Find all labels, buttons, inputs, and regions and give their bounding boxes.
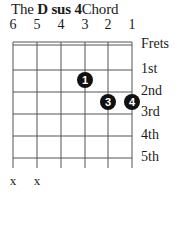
svg-text:4: 4 <box>129 96 136 108</box>
fret-label-2nd: 2nd <box>141 83 162 99</box>
fret-label-4th: 4th <box>141 127 159 143</box>
muted-string-5: x <box>31 173 43 189</box>
svg-text:3: 3 <box>105 96 111 108</box>
muted-string-6: x <box>7 173 19 189</box>
frets-header: Frets <box>141 36 169 52</box>
fret-label-5th: 5th <box>141 149 159 165</box>
finger-dot-1: 1 <box>77 72 93 88</box>
svg-text:1: 1 <box>82 74 88 86</box>
finger-dot-4: 4 <box>124 94 140 110</box>
fret-label-3rd: 3rd <box>141 104 160 120</box>
finger-dot-3: 3 <box>100 94 116 110</box>
fret-label-1st: 1st <box>141 61 157 77</box>
